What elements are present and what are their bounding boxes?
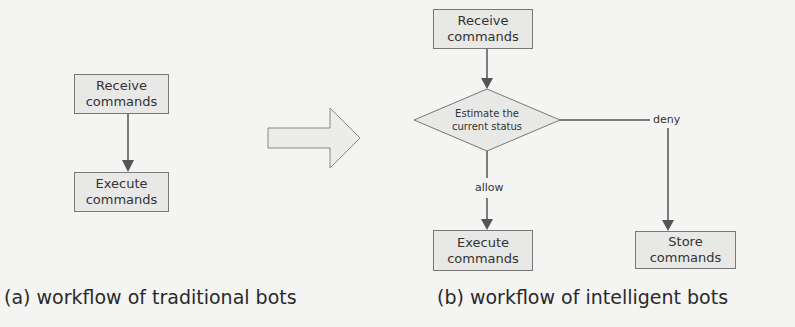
node-estimate-status: Estimate the current status <box>432 107 542 133</box>
right-block-arrow-icon <box>268 108 360 168</box>
node-line1: Estimate the <box>432 107 542 120</box>
edge-label-allow: allow <box>475 181 504 194</box>
node-line1: Receive <box>458 13 509 29</box>
node-line2: commands <box>86 192 158 208</box>
node-line1: Store <box>668 234 702 250</box>
edge-receive-to-execute-a <box>122 113 134 172</box>
node-line1: Execute <box>96 176 148 192</box>
node-receive-commands-b: Receive commands <box>433 9 533 49</box>
edge-label-deny: deny <box>653 113 680 126</box>
node-execute-commands-b: Execute commands <box>433 230 533 271</box>
node-store-commands: Store commands <box>635 231 736 269</box>
node-line1: Execute <box>457 235 509 251</box>
node-execute-commands-a: Execute commands <box>74 172 169 212</box>
caption-a: (a) workflow of traditional bots <box>4 286 297 308</box>
edge-deny <box>560 120 674 231</box>
node-receive-commands-a: Receive commands <box>74 74 169 114</box>
node-line2: commands <box>86 94 158 110</box>
node-line2: commands <box>447 251 519 267</box>
node-line2: commands <box>447 29 519 45</box>
node-line2: commands <box>650 250 722 266</box>
caption-b: (b) workflow of intelligent bots <box>437 286 728 308</box>
diagram-connectors <box>0 0 795 327</box>
node-line1: Receive <box>96 78 147 94</box>
node-line2: current status <box>432 120 542 133</box>
edge-receive-to-estimate <box>481 48 493 89</box>
